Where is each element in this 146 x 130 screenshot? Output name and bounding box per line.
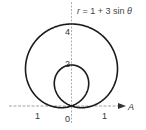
arrow-head-icon — [118, 103, 126, 109]
tick-label-left-1: 1 — [35, 111, 40, 121]
tick-label-4: 4 — [65, 27, 70, 37]
limacon-diagram: r = 1 + 3 sin θ 4 2 1 0 1 A — [0, 0, 146, 130]
equation-label: r = 1 + 3 sin θ — [77, 6, 132, 16]
origin-label: 0 — [65, 114, 70, 124]
axis-label-a: A — [127, 102, 134, 112]
tick-label-2: 2 — [65, 59, 70, 69]
tick-label-right-1: 1 — [102, 111, 107, 121]
